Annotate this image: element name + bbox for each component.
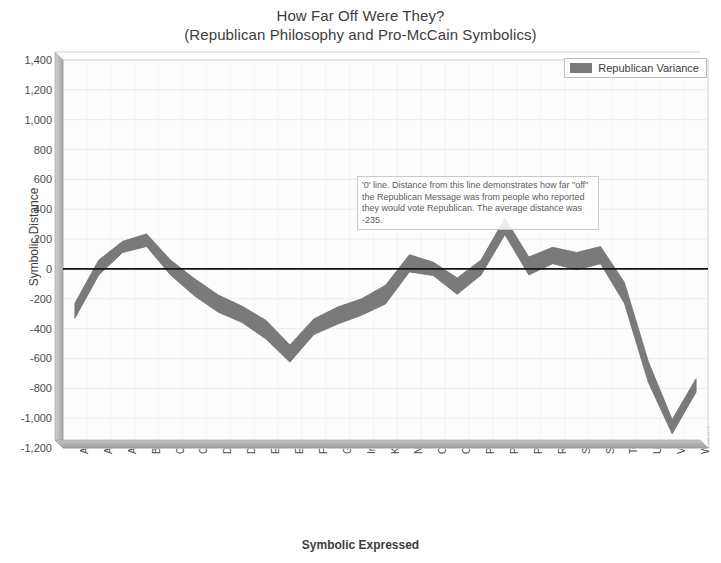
zero-line-annotation: '0' line. Distance from this line demons… [357, 176, 599, 230]
legend-label-republican-variance: Republican Variance [598, 62, 699, 74]
chart-legend[interactable]: Republican Variance [564, 58, 707, 78]
plot-area [0, 0, 721, 563]
legend-swatch-republican-variance [570, 63, 592, 73]
axis-wall-left [55, 52, 63, 448]
axis-floor [55, 440, 708, 448]
chart-figure: How Far Off Were They? (Republican Philo… [0, 0, 721, 563]
